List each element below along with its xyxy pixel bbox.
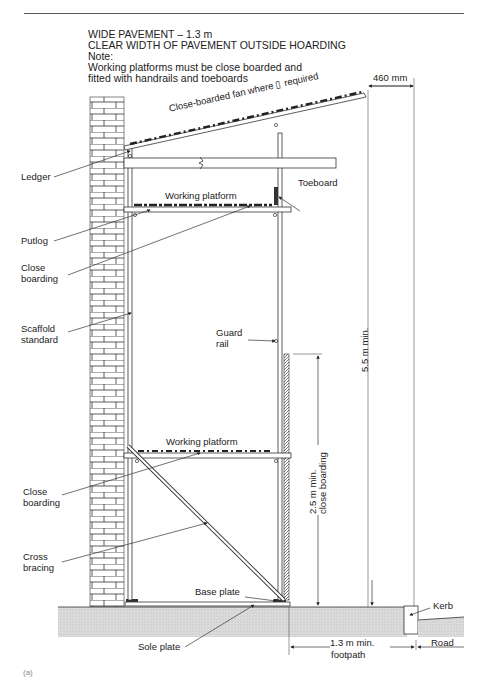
outer-standard xyxy=(278,133,282,600)
road xyxy=(418,617,464,637)
footpath-dimension-line-2: footpath xyxy=(331,650,365,661)
close-boarding-lower-label-2: boarding xyxy=(23,498,60,509)
kerb-label: Kerb xyxy=(433,601,453,612)
guard-rail-label-1: Guard xyxy=(216,328,242,339)
close-boarding-upper-label-2: boarding xyxy=(21,274,58,285)
brick-wall xyxy=(90,97,124,607)
close-boarding-lower-label-1: Close xyxy=(23,487,47,498)
cross-bracing-label-2: bracing xyxy=(23,563,54,574)
toeboard-label: Toeboard xyxy=(298,178,338,189)
working-platform-lower-label: Working platform xyxy=(166,437,238,448)
guard-rail-label-2: rail xyxy=(216,339,229,350)
road-label: Road xyxy=(431,638,454,649)
boarding-height-line-2: close boarding xyxy=(318,452,329,514)
sole-plate xyxy=(125,602,290,606)
hoarding-boarding xyxy=(284,354,289,600)
scaffold-standard-label-2: standard xyxy=(21,335,58,346)
scaffold-standard-label-1: Scaffold xyxy=(21,324,55,335)
upper-platform-putlog xyxy=(124,207,291,212)
figure-tag: (a) xyxy=(23,668,33,679)
min-height-dimension: 5.5 m min. xyxy=(360,328,371,372)
footpath-dimension-line-1: 1.3 m min. xyxy=(330,638,374,649)
ledger-label: Ledger xyxy=(21,172,51,183)
kerb xyxy=(404,606,418,634)
lower-platform-putlog xyxy=(124,453,291,458)
ground xyxy=(58,607,407,637)
cross-bracing-label-1: Cross xyxy=(23,552,48,563)
base-plate-label: Base plate xyxy=(195,587,240,598)
ledger xyxy=(124,158,336,168)
sole-plate-label: Sole plate xyxy=(138,642,180,653)
scaffold-diagram xyxy=(0,0,484,680)
toeboard xyxy=(274,187,278,205)
working-platform-upper-label: Working platform xyxy=(165,191,237,202)
putlog-label: Putlog xyxy=(21,236,48,247)
close-boarding-upper-label-1: Close xyxy=(21,263,45,274)
fan xyxy=(124,93,366,150)
fan-overhang-dimension: 460 mm xyxy=(373,73,407,84)
